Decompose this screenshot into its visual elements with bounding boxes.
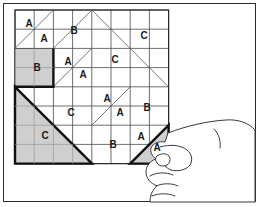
puzzle-figure: A A B C B A A C C A A B C B A A — [0, 0, 261, 207]
cell-label-c-3: C — [67, 108, 74, 118]
puzzle-artwork — [0, 0, 261, 207]
cell-label-a-8: A — [153, 143, 160, 153]
fingernail — [156, 154, 171, 166]
cell-label-a-7: A — [137, 132, 144, 142]
cell-label-a-6: A — [116, 108, 123, 118]
cell-label-b-1: B — [70, 26, 77, 36]
cell-label-a-2: A — [40, 34, 47, 44]
cell-label-a-3: A — [64, 57, 71, 67]
cell-label-a-5: A — [103, 94, 110, 104]
cell-label-c-1: C — [140, 31, 147, 41]
cell-label-b-3: B — [143, 103, 150, 113]
cell-label-a-4: A — [79, 70, 86, 80]
cell-label-c-4: C — [41, 131, 48, 141]
cell-label-a-1: A — [25, 19, 32, 29]
cell-label-c-2: C — [111, 55, 118, 65]
cell-label-b-4: B — [109, 140, 116, 150]
cell-label-b-2: B — [33, 63, 40, 73]
